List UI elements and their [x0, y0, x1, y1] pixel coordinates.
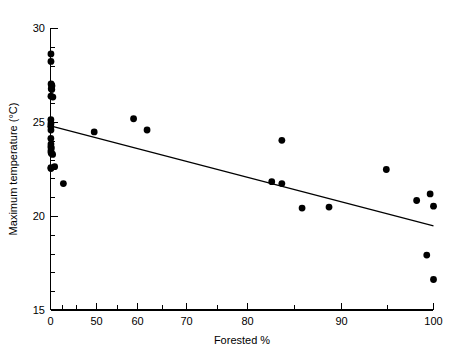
x-tick-label-70: 70	[180, 315, 192, 327]
data-point	[144, 127, 151, 134]
regression-trendline	[51, 126, 434, 226]
chart-figure: 30 25 20 15 0 50 60	[0, 0, 461, 353]
y-axis-tick-labels: 30 25 20 15	[33, 22, 45, 316]
data-point	[427, 191, 434, 198]
data-point	[48, 58, 55, 65]
x-axis-tick-labels: 0 50 60 70 80 90 100	[47, 315, 442, 327]
data-point	[430, 276, 437, 283]
data-point	[49, 151, 56, 158]
y-axis-title: Maximum temperature (°C)	[7, 103, 19, 236]
x-axis-title: Forested %	[214, 334, 270, 346]
data-point	[60, 180, 67, 187]
y-tick-label-20: 20	[33, 210, 45, 222]
x-tick-label-80: 80	[241, 315, 253, 327]
data-point	[413, 197, 420, 204]
data-point	[48, 50, 55, 57]
data-point	[278, 137, 285, 144]
x-tick-label-0: 0	[47, 315, 53, 327]
data-point	[48, 86, 55, 93]
y-tick-label-15: 15	[33, 304, 45, 316]
data-point	[268, 178, 275, 185]
x-tick-label-100: 100	[424, 315, 442, 327]
data-point	[278, 180, 285, 187]
data-point	[91, 129, 98, 136]
x-axis-minor-ticks	[63, 305, 388, 310]
data-points-group	[47, 50, 437, 282]
x-axis-major-ticks	[51, 303, 434, 310]
x-tick-label-60: 60	[131, 315, 143, 327]
data-point	[130, 115, 137, 122]
scatter-plot: 30 25 20 15 0 50 60	[0, 0, 461, 353]
data-point	[48, 127, 55, 134]
x-tick-label-90: 90	[335, 315, 347, 327]
data-point	[383, 166, 390, 173]
data-point	[423, 252, 430, 259]
x-tick-label-50: 50	[90, 315, 102, 327]
data-point	[430, 203, 437, 210]
y-tick-label-30: 30	[33, 22, 45, 34]
y-tick-label-25: 25	[33, 116, 45, 128]
data-point	[326, 204, 333, 211]
data-point	[49, 94, 56, 101]
data-point	[299, 205, 306, 212]
data-point	[51, 163, 58, 170]
